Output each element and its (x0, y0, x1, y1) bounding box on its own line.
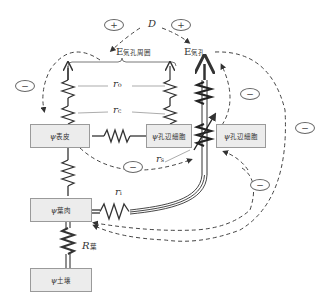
resistor-epidermis-guard (92, 130, 146, 142)
node-soil-sub: 土壌 (57, 275, 71, 285)
r-s-line (165, 150, 190, 162)
node-guard-cell-right: ψ孔辺細胞 (216, 124, 266, 148)
label-r-i: ri (115, 186, 122, 197)
label-r-o: ro (113, 78, 122, 89)
dash-guard-right-down (95, 168, 254, 230)
label-r-o-sub: o (118, 81, 122, 89)
node-mesophyll: ψ葉肉 (30, 198, 92, 222)
r-c-line-left (78, 112, 108, 113)
label-r-c-sub: c (118, 107, 122, 115)
sign-minus-center: − (123, 161, 143, 173)
sign-plus-left: + (104, 19, 124, 31)
node-soil: ψ土壌 (30, 268, 92, 292)
r-c-line-right (132, 112, 165, 114)
sign-minus-far-left: − (15, 80, 35, 92)
sign-minus-lower-right: − (250, 179, 270, 191)
node-mesophyll-sub: 葉肉 (57, 205, 71, 215)
dash-guard-right-up (222, 66, 230, 125)
label-D: D (148, 18, 156, 29)
label-r-i-sub: i (120, 189, 122, 197)
label-R-leaf: R葉 (82, 240, 97, 251)
resistor-stomata-top (197, 82, 211, 104)
sign-minus-right: − (295, 122, 315, 134)
label-R-leaf-main: R (82, 240, 90, 251)
label-E-surround-sub: 気孔周囲 (123, 49, 151, 57)
resistor-guard-chain (164, 80, 176, 125)
resistor-ri (92, 204, 129, 219)
mesophyll-pipe (130, 175, 207, 214)
label-r-c: rc (113, 104, 121, 115)
sign-plus-right: + (171, 19, 191, 31)
dash-Esurround-to-epidermis (43, 52, 100, 110)
label-r-s-sub: s (161, 156, 164, 164)
node-epidermis-sub: 表皮 (56, 131, 70, 141)
label-E-stomata: E気孔 (184, 46, 205, 57)
label-R-leaf-sub: 葉 (90, 243, 97, 251)
sign-minus-upper-right: − (240, 88, 260, 100)
label-E-surround: E気孔周囲 (116, 46, 151, 57)
brace (68, 58, 176, 66)
node-epidermis: ψ表皮 (30, 124, 90, 148)
label-r-s: rs (156, 153, 164, 164)
node-guard-right-sub: 孔辺細胞 (230, 131, 258, 141)
node-guard-cell-left: ψ孔辺細胞 (146, 124, 192, 148)
resistor-R-leaf (62, 222, 74, 268)
node-guard-left-sub: 孔辺細胞 (158, 131, 186, 141)
diagram-canvas (0, 0, 326, 301)
resistor-epidermis-mesophyll (62, 147, 74, 196)
dash-guard-to-variable (225, 152, 248, 170)
label-E-stomata-sub: 気孔 (191, 49, 205, 57)
